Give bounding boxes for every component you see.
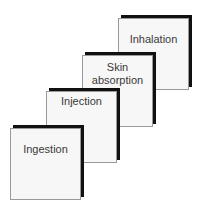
step-label: Inhalation <box>119 33 188 46</box>
card-face: Ingestion <box>10 128 81 200</box>
step-label: Skin absorption <box>83 61 152 87</box>
step-card-ingestion: Ingestion <box>10 128 81 200</box>
step-label-line-2: absorption <box>83 74 152 87</box>
step-label: Ingestion <box>11 143 80 156</box>
step-label-line-1: Skin <box>83 61 152 74</box>
cropped-caption-text <box>0 0 202 2</box>
step-label: Injection <box>47 95 116 108</box>
